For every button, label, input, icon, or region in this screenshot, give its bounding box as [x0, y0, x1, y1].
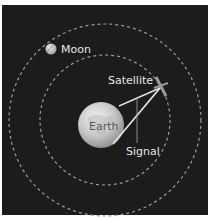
- earth-label: Earth: [89, 120, 119, 133]
- signal-label: Signal: [126, 145, 160, 158]
- moon-label: Moon: [61, 43, 91, 56]
- satellite-label: Satellite: [108, 74, 153, 87]
- orbit-diagram: Earth Moon Satellite Signal: [0, 0, 210, 219]
- moon-icon: [46, 44, 57, 55]
